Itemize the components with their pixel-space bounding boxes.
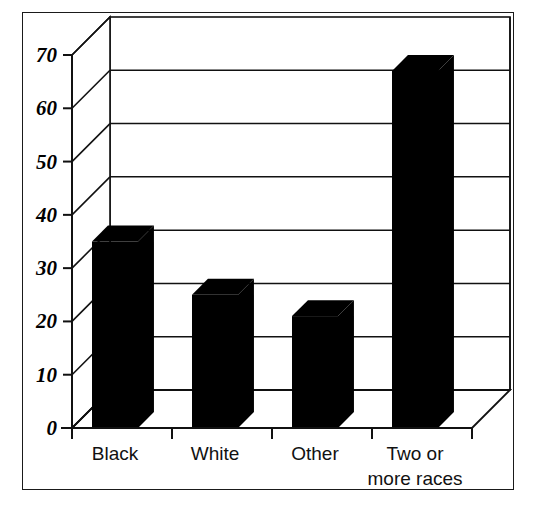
x-tick-label-white: White: [191, 443, 240, 464]
x-tick-label-black: Black: [92, 443, 139, 464]
bar-white: [192, 279, 254, 428]
y-tick-label-0: 0: [47, 416, 58, 440]
bar-black: [92, 226, 154, 428]
chart-canvas: 010203040506070BlackWhiteOtherTwo ormore…: [0, 0, 534, 507]
y-tick-label-10: 10: [36, 363, 58, 387]
x-tick-label-two-or-more-races: Two or: [386, 443, 444, 464]
bar-other: [292, 300, 354, 428]
y-tick-label-50: 50: [36, 150, 58, 174]
y-tick-label-20: 20: [35, 309, 58, 333]
y-tick-label-30: 30: [35, 256, 58, 280]
y-tick-label-70: 70: [36, 43, 58, 67]
x-tick-label-other: Other: [291, 443, 339, 464]
bar-two-or-more-races: [392, 55, 454, 428]
y-tick-label-60: 60: [36, 96, 58, 120]
bar-chart-figure: 010203040506070BlackWhiteOtherTwo ormore…: [0, 0, 534, 507]
y-tick-label-40: 40: [35, 203, 58, 227]
x-tick-label-two-or-more-races: more races: [367, 468, 462, 489]
